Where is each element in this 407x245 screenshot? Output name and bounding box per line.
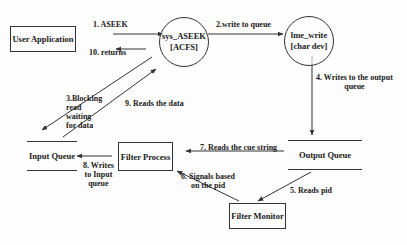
node-user-application: User Application [10,26,76,52]
edge-6-line2: on the pid [181,181,235,190]
edge-3-line3: waiting [66,112,102,121]
edge-3-line4: for data [66,121,102,130]
node-output-queue: Output Queue [288,140,362,170]
node-sys-aseek-line2: [ACFS] [170,42,198,53]
edge-7-label: 7. Reads the cue string [200,143,277,152]
edge-9-label: 9. Reads the data [125,99,184,108]
node-sys-aseek-line1: sys_ASEEK [162,31,206,42]
node-input-queue-label: Input Queue [29,151,75,161]
edge-6-line1: 6. Signals based [181,172,235,181]
edge-8-line2: to Input [83,170,114,179]
node-lme-write-line2: [char dev] [291,41,328,52]
edge-8-label: 8. Writes to Input queue [83,161,114,188]
node-filter-process: Filter Process [118,142,173,171]
node-filter-monitor-label: Filter Monitor [231,211,283,221]
edge-5-label: 5. Reads pid [290,186,332,195]
node-sys-aseek: sys_ASEEK [ACFS] [159,17,209,67]
edge-3-label: 3.Blocking read waiting for data [66,94,102,130]
edge-6-label: 6. Signals based on the pid [181,172,235,190]
edge-4-label: 4. Writes to the output queue [316,73,393,91]
node-input-queue: Input Queue [27,141,77,171]
edge-10-label: 10. returns [89,48,126,57]
node-filter-process-label: Filter Process [121,152,171,162]
diagram-canvas: User Application sys_ASEEK [ACFS] lme_wr… [0,0,407,245]
edge-4-line2: queue [316,82,393,91]
node-output-queue-label: Output Queue [299,150,351,160]
edge-3-line2: read [66,103,102,112]
edge-2-label: 2.write to queue [216,20,271,29]
node-user-application-label: User Application [12,34,73,44]
node-filter-monitor: Filter Monitor [229,203,286,229]
edge-8-line3: queue [83,179,114,188]
node-lme-write-line1: lme_write [291,30,327,41]
edge-1-label: 1. ASEEK [93,20,128,29]
node-lme-write: lme_write [char dev] [284,16,334,66]
edge-8-line1: 8. Writes [83,161,114,170]
edge-4-line1: 4. Writes to the output [316,73,393,82]
edge-3-line1: 3.Blocking [66,94,102,103]
